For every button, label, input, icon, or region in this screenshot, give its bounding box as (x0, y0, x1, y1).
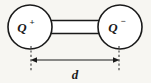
negative-charge-group: Q − (98, 5, 142, 49)
positive-charge-sign: + (29, 17, 34, 27)
rod-group (46, 21, 104, 34)
positive-charge-group: Q + (8, 5, 52, 49)
negative-charge-circle (98, 5, 142, 49)
dipole-figure: Q + Q − d (0, 0, 151, 83)
negative-charge-symbol: Q (108, 20, 118, 35)
negative-charge-sign: − (120, 16, 125, 26)
distance-label: d (72, 67, 79, 82)
positive-charge-circle (8, 5, 52, 49)
rod-interior (46, 21, 104, 33)
dipole-diagram: Q + Q − d (0, 0, 151, 83)
positive-charge-symbol: Q (17, 20, 27, 35)
